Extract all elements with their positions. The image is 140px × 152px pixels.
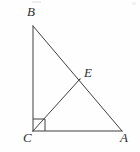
scan-artifact-corner	[132, 2, 136, 5]
point-E-marker	[79, 78, 80, 79]
geometry-figure: B C A E	[0, 0, 140, 152]
diagram-canvas	[0, 0, 140, 152]
vertex-label-C: C	[23, 131, 32, 144]
scan-artifact-top	[32, 1, 41, 3]
vertex-label-A: A	[120, 131, 128, 144]
vertex-label-E: E	[84, 66, 92, 79]
segment-BA-hypotenuse	[33, 26, 122, 131]
segment-CE-cevian	[33, 79, 80, 131]
vertex-label-B: B	[27, 5, 35, 18]
